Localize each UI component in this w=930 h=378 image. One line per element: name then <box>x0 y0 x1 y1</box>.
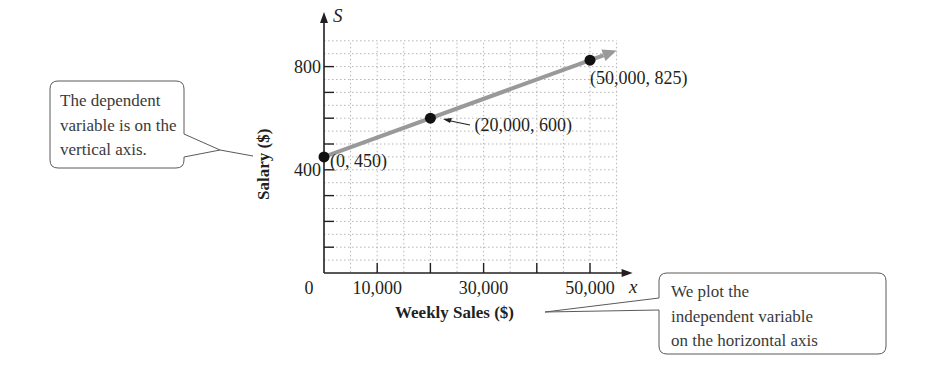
points: (0, 450)(20,000, 600)(50,000, 825) <box>319 55 688 172</box>
callout-dependent-pointer <box>220 150 253 156</box>
data-point <box>319 151 330 162</box>
y-axis-variable: S <box>333 5 343 26</box>
data-point <box>425 113 436 124</box>
x-axis-title: Weekly Sales ($) <box>395 303 514 322</box>
callout-independent-line-2: independent variable <box>671 307 813 326</box>
y-axis-title: Salary ($) <box>254 129 273 200</box>
y-tick-label: 800 <box>294 57 321 77</box>
x-axis-variable: x <box>628 276 638 297</box>
series-arrow-icon <box>601 50 616 61</box>
callout-independent-line-1: We plot the <box>671 282 749 301</box>
series-line <box>324 55 603 157</box>
series <box>324 50 617 157</box>
callout-dependent-line-3: vertical axis. <box>60 140 147 159</box>
y-tick-label: 400 <box>294 160 321 180</box>
y-axis-arrow-icon <box>320 12 328 23</box>
callout-independent-line-3: on the horizontal axis <box>671 331 818 350</box>
data-point-label: (50,000, 825) <box>590 68 688 89</box>
data-point-label: (0, 450) <box>330 151 387 172</box>
data-point <box>585 55 596 66</box>
callout-dependent-line-1: The dependent <box>60 91 161 110</box>
x-tick-label: 10,000 <box>352 278 402 298</box>
x-tick-label: 50,000 <box>565 278 615 298</box>
data-point-label: (20,000, 600) <box>474 115 572 136</box>
callout-dependent-line-2: variable is on the <box>60 116 177 135</box>
tick-labels: 010,00030,00050,000400800 <box>294 57 615 298</box>
chart: 010,00030,00050,000400800 (0, 450)(20,00… <box>0 0 930 378</box>
callout-dependent: The dependent variable is on the vertica… <box>50 81 253 168</box>
x-tick-label: 30,000 <box>459 278 509 298</box>
x-tick-label: 0 <box>305 278 314 298</box>
